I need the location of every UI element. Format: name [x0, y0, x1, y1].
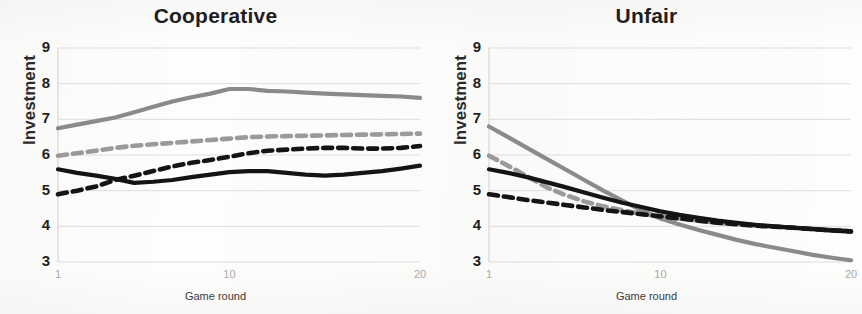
y-axis-tick-label: 3 [457, 252, 481, 269]
x-axis-tick-label: 20 [836, 268, 862, 280]
panel-unfair: Unfair Investment Game round 98765431102… [431, 0, 862, 314]
x-axis-label-unfair: Game round [431, 290, 862, 302]
plot-area-cooperative [0, 0, 431, 314]
y-axis-tick-label: 7 [26, 109, 50, 126]
figure-panels: Cooperative Investment Game round 987654… [0, 0, 862, 314]
y-axis-tick-label: 4 [26, 216, 50, 233]
x-axis-tick-label: 10 [645, 268, 675, 280]
y-axis-tick-label: 6 [457, 145, 481, 162]
series-line-gray-solid [58, 89, 420, 128]
y-axis-tick-label: 5 [26, 181, 50, 198]
y-axis-tick-label: 3 [26, 252, 50, 269]
x-axis-tick-label: 1 [43, 268, 73, 280]
y-axis-tick-label: 5 [457, 181, 481, 198]
series-line-gray-dashed [58, 134, 420, 156]
y-axis-tick-label: 9 [26, 38, 50, 55]
y-axis-tick-label: 8 [457, 74, 481, 91]
y-axis-tick-label: 4 [457, 216, 481, 233]
x-axis-label-cooperative: Game round [0, 290, 431, 302]
x-axis-tick-label: 10 [214, 268, 244, 280]
plot-area-unfair [431, 0, 862, 314]
x-axis-tick-label: 1 [474, 268, 504, 280]
series-line-gray-solid [489, 126, 851, 260]
series-line-black-solid [58, 166, 420, 183]
y-axis-tick-label: 6 [26, 145, 50, 162]
y-axis-tick-label: 9 [457, 38, 481, 55]
panel-cooperative: Cooperative Investment Game round 987654… [0, 0, 431, 314]
y-axis-tick-label: 8 [26, 74, 50, 91]
y-axis-tick-label: 7 [457, 109, 481, 126]
